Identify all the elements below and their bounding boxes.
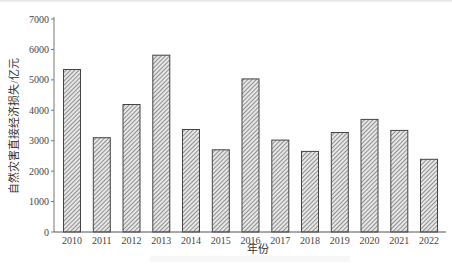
x-tick-label: 2011 [92, 235, 112, 246]
x-tick-label: 2017 [270, 235, 290, 246]
x-tick-label: 2021 [389, 235, 409, 246]
y-tick-label: 6000 [29, 44, 49, 55]
x-tick-label: 2018 [300, 235, 320, 246]
bar-2020 [361, 119, 378, 232]
bar-2016 [242, 79, 259, 232]
x-tick-label: 2020 [360, 235, 380, 246]
x-tick-label: 2012 [122, 235, 142, 246]
y-tick-label: 7000 [29, 14, 49, 25]
x-tick-label: 2019 [330, 235, 350, 246]
bar-2022 [421, 159, 438, 232]
bar-2021 [391, 130, 408, 232]
bar-2019 [331, 133, 348, 233]
x-axis-title: 年份 [247, 242, 269, 255]
y-tick-label: 4000 [29, 105, 49, 116]
x-tick-label: 2010 [62, 235, 82, 246]
x-tick-label: 2015 [211, 235, 231, 246]
x-tick-label: 2022 [419, 235, 439, 246]
bar-2014 [183, 130, 200, 233]
bar-2018 [302, 151, 319, 232]
y-tick-label: 3000 [29, 135, 49, 146]
bar-2012 [123, 105, 140, 233]
caption-artifact [150, 256, 350, 262]
y-tick-label: 5000 [29, 74, 49, 85]
bar-2010 [64, 70, 81, 233]
y-tick-label: 0 [44, 227, 49, 238]
bar-2013 [153, 55, 170, 232]
x-tick-label: 2013 [151, 235, 171, 246]
bar-2011 [93, 138, 110, 232]
bar-2015 [212, 150, 229, 232]
x-tick-label: 2014 [181, 235, 201, 246]
y-axis-title: 自然灾害直接经济损失/亿元 [7, 58, 20, 193]
bar-2017 [272, 140, 289, 232]
bars [64, 55, 438, 232]
bar-chart: 01000200030004000500060007000 2010201120… [0, 0, 452, 266]
y-tick-label: 1000 [29, 196, 49, 207]
y-tick-label: 2000 [29, 166, 49, 177]
y-axis: 01000200030004000500060007000 [29, 14, 54, 238]
